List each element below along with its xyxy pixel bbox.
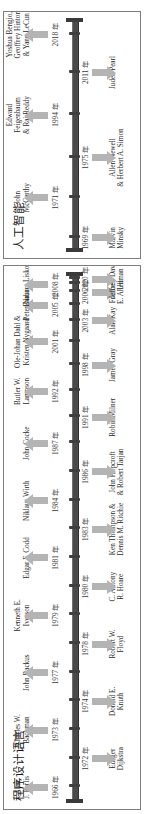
axis-tick — [69, 469, 80, 472]
axis-tick — [69, 235, 80, 238]
event-year-label: 1981 年 — [50, 546, 60, 569]
event-year-label: 1974 年 — [80, 690, 90, 713]
axis-end-cap — [66, 18, 83, 22]
axis-tick — [69, 302, 80, 305]
axis-tick — [69, 756, 80, 759]
axis-tick — [69, 112, 80, 115]
timeline-event: Yoshua Bengio,Geoffrey Hinton& Yann LeCu… — [6, 11, 60, 72]
axis-tick — [69, 339, 80, 342]
event-arrow-icon — [92, 414, 108, 421]
timeline-event: EdwardFeigenbaum& Raj Reddy1994 年 — [6, 78, 60, 152]
event-year-label: 1971 年 — [50, 186, 60, 209]
timeline-event: 1969 年MarvinMinsky — [80, 201, 126, 259]
axis-tick — [69, 612, 80, 615]
timeline-event: 1975 年Allen Newell& Herbert A. Simon — [80, 121, 126, 195]
timeline-event: 2011 年Judea Pearl — [80, 36, 117, 110]
axis-tick — [69, 70, 80, 73]
axis-tick — [69, 670, 80, 673]
event-arrow-icon — [32, 497, 48, 504]
axis-tick — [69, 698, 80, 701]
event-year-label: 1977 年 — [50, 661, 60, 684]
timeline-axis — [72, 18, 79, 252]
event-arrow-icon — [32, 727, 48, 734]
axis-tick — [69, 388, 80, 391]
event-year-label: 1987 年 — [50, 432, 60, 455]
axis-tick — [69, 155, 80, 158]
event-arrow-icon — [92, 69, 108, 76]
timeline-axis — [72, 272, 79, 803]
event-arrow-icon — [92, 362, 108, 369]
panel-artificial-intelligence: 人工智能1969 年MarvinMinskyJohnMcCarthy1971 年… — [3, 11, 141, 259]
event-year-label: 1979 年 — [50, 604, 60, 627]
event-year-label: 1986 年 — [80, 460, 90, 483]
event-arrow-icon — [32, 784, 48, 791]
event-arrow-icon — [32, 281, 48, 288]
event-arrow-icon — [32, 388, 48, 395]
axis-tick — [69, 555, 80, 558]
event-arrow-icon — [92, 154, 108, 161]
event-arrow-icon — [92, 641, 108, 648]
event-arrow-icon — [32, 112, 48, 119]
event-arrow-icon — [92, 583, 108, 590]
event-arrow-icon — [32, 31, 48, 38]
event-arrow-icon — [32, 194, 48, 201]
event-year-label: 1984 年 — [50, 489, 60, 512]
event-year-label: 2011 年 — [80, 61, 90, 84]
event-year-label: 1980 年 — [80, 575, 90, 598]
axis-tick — [69, 195, 80, 198]
event-arrow-icon — [92, 698, 108, 705]
event-arrow-icon — [92, 276, 108, 283]
event-year-label: 1973 年 — [50, 718, 60, 741]
event-year-label: 2018 年 — [50, 23, 60, 46]
axis-tick — [69, 289, 80, 292]
axis-tick — [69, 281, 80, 284]
event-arrow-icon — [92, 469, 108, 476]
event-year-label: 1978 年 — [80, 632, 90, 655]
event-year-label: 1983 年 — [80, 518, 90, 541]
event-arrow-icon — [92, 526, 108, 533]
axis-tick — [69, 440, 80, 443]
event-arrow-icon — [32, 612, 48, 619]
timeline-figure: 程序设计语言AlanJ. Perlis1966 年1972 年EdsgerDij… — [0, 0, 146, 814]
event-year-label: 1992 年 — [50, 380, 60, 403]
event-year-label: 1972 年 — [80, 747, 90, 770]
event-arrow-icon — [32, 555, 48, 562]
event-arrow-icon — [92, 234, 108, 241]
axis-tick — [69, 526, 80, 529]
event-arrow-icon — [32, 669, 48, 676]
event-year-label: 1966 年 — [50, 776, 60, 799]
event-year-label: 1991 年 — [80, 406, 90, 429]
axis-tick — [69, 727, 80, 730]
event-year-label: 2008 年 — [50, 273, 60, 296]
timeline-event: 2020 年Jeffrey DavidUllman — [80, 265, 126, 316]
axis-tick — [69, 641, 80, 644]
timeline-event: JohnMcCarthy1971 年 — [14, 161, 60, 235]
event-year-label: 2020 年 — [80, 267, 90, 290]
axis-start-cap — [66, 799, 83, 803]
timeline-event: Barbara Liskov2008 年 — [23, 265, 60, 321]
axis-tick — [69, 414, 80, 417]
axis-tick — [69, 362, 80, 365]
event-year-label: 1975 年 — [80, 146, 90, 169]
event-year-label: 1994 年 — [50, 103, 60, 126]
axis-tick — [69, 498, 80, 501]
axis-tick — [69, 276, 80, 279]
axis-tick — [69, 584, 80, 587]
panel-programming-languages: 程序设计语言AlanJ. Perlis1966 年1972 年EdsgerDij… — [3, 265, 141, 810]
axis-tick — [69, 32, 80, 35]
event-arrow-icon — [92, 755, 108, 762]
event-arrow-icon — [32, 440, 48, 447]
event-year-label: 1969 年 — [80, 226, 90, 249]
axis-tick — [69, 784, 80, 787]
axis-tick — [69, 318, 80, 321]
